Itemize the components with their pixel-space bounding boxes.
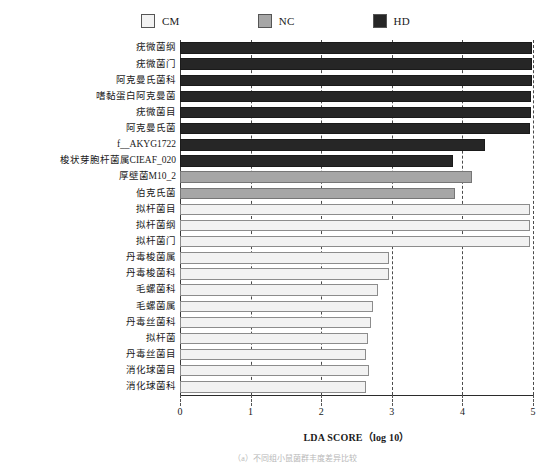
bar-row-label: 拟杆菌纲	[0, 220, 176, 230]
bar-cm	[180, 220, 530, 231]
bar-cm	[180, 301, 373, 312]
bar-row-label: f__AKYG1722	[0, 139, 176, 149]
tick-label-2: 2	[309, 406, 333, 417]
tick-mark-0	[180, 395, 181, 406]
bar-hd	[180, 58, 532, 69]
bar-hd	[180, 91, 531, 102]
bar-hd	[180, 42, 532, 53]
tick-label-3: 3	[380, 406, 404, 417]
bar-row: 疣微菌纲	[0, 40, 551, 55]
bar-row-label: 拟杆菌	[0, 333, 176, 343]
legend-label-nc: NC	[279, 15, 295, 27]
legend-label-hd: HD	[394, 15, 411, 27]
tick-mark-3	[392, 395, 393, 406]
bar-hd	[180, 155, 453, 166]
tick-label-0: 0	[168, 406, 192, 417]
bar-row-label: 毛螺菌科	[0, 284, 176, 294]
tick-label-1: 1	[239, 406, 263, 417]
bar-row-label: 阿克曼氏菌	[0, 123, 176, 133]
bar-cm	[180, 333, 368, 344]
bar-row-label: 厚壁菌M10_2	[0, 171, 176, 181]
bar-row-label: 嗜黏蛋白阿克曼菌	[0, 91, 176, 101]
bar-cm	[180, 381, 366, 392]
bar-row: 疣微菌目	[0, 105, 551, 120]
bar-rows: 疣微菌纲疣微菌门阿克曼氏菌科嗜黏蛋白阿克曼菌疣微菌目阿克曼氏菌f__AKYG17…	[0, 40, 551, 395]
bar-row-label: 梭状芽胞杆菌属CIEAF_020	[0, 155, 176, 165]
bar-row: 丹毒梭菌科	[0, 266, 551, 281]
bar-row-label: 伯克氏菌	[0, 188, 176, 198]
bar-row-label: 拟杆菌门	[0, 236, 176, 246]
legend-item-hd: HD	[373, 14, 411, 28]
bar-cm	[180, 317, 371, 328]
bar-row-label: 阿克曼氏菌科	[0, 75, 176, 85]
legend-swatch-hd	[373, 14, 387, 28]
legend-swatch-cm	[141, 14, 155, 28]
bar-row-label: 疣微菌纲	[0, 42, 176, 52]
bar-row: 拟杆菌纲	[0, 218, 551, 233]
legend-item-nc: NC	[258, 14, 295, 28]
bar-row: 丹毒梭菌属	[0, 250, 551, 265]
bar-row: f__AKYG1722	[0, 137, 551, 152]
bar-cm	[180, 365, 369, 376]
bar-cm	[180, 268, 389, 279]
bar-row-label: 丹毒梭菌属	[0, 252, 176, 262]
bar-cm	[180, 204, 530, 215]
tick-mark-2	[321, 395, 322, 406]
bar-row: 嗜黏蛋白阿克曼菌	[0, 88, 551, 103]
bar-row: 拟杆菌目	[0, 201, 551, 216]
bar-hd	[180, 139, 485, 150]
bar-cm	[180, 252, 389, 263]
legend-swatch-nc	[258, 14, 272, 28]
bar-hd	[180, 107, 531, 118]
bar-row: 厚壁菌M10_2	[0, 169, 551, 184]
tick-mark-4	[462, 395, 463, 406]
bar-row-label: 丹毒梭菌科	[0, 268, 176, 278]
figure-caption: （a）不同组小鼠菌群丰度差异比较	[150, 452, 440, 463]
tick-mark-5	[533, 395, 534, 406]
bar-row-label: 丹毒丝菌目	[0, 349, 176, 359]
bar-row-label: 拟杆菌目	[0, 204, 176, 214]
bar-row: 伯克氏菌	[0, 185, 551, 200]
bar-row-label: 丹毒丝菌科	[0, 317, 176, 327]
bar-row: 阿克曼氏菌科	[0, 72, 551, 87]
bar-row: 疣微菌门	[0, 56, 551, 71]
bar-cm	[180, 236, 530, 247]
x-axis-ticks: 012345	[0, 395, 551, 417]
bar-hd	[180, 75, 532, 86]
bar-row: 拟杆菌	[0, 330, 551, 345]
bar-row-label: 消化球菌目	[0, 365, 176, 375]
bar-row: 消化球菌目	[0, 363, 551, 378]
bar-row: 梭状芽胞杆菌属CIEAF_020	[0, 153, 551, 168]
tick-mark-1	[251, 395, 252, 406]
bar-row: 消化球菌科	[0, 379, 551, 394]
legend-item-cm: CM	[141, 14, 180, 28]
bar-row: 拟杆菌门	[0, 234, 551, 249]
bar-row: 丹毒丝菌目	[0, 347, 551, 362]
bar-row-label: 疣微菌目	[0, 107, 176, 117]
bar-row-label: 消化球菌科	[0, 381, 176, 391]
bar-nc	[180, 171, 472, 182]
bar-row: 毛螺菌属	[0, 298, 551, 313]
bar-row: 丹毒丝菌科	[0, 314, 551, 329]
bar-row: 阿克曼氏菌	[0, 121, 551, 136]
legend-label-cm: CM	[162, 15, 180, 27]
bar-cm	[180, 284, 378, 295]
x-axis-title: LDA SCORE（log 10）	[180, 429, 533, 444]
bar-row-label: 毛螺菌属	[0, 301, 176, 311]
bar-cm	[180, 349, 366, 360]
tick-label-4: 4	[450, 406, 474, 417]
bar-row: 毛螺菌科	[0, 282, 551, 297]
bar-nc	[180, 188, 455, 199]
bar-row-label: 疣微菌门	[0, 59, 176, 69]
bar-hd	[180, 123, 530, 134]
legend: CM NC HD	[0, 8, 551, 34]
tick-label-5: 5	[521, 406, 545, 417]
